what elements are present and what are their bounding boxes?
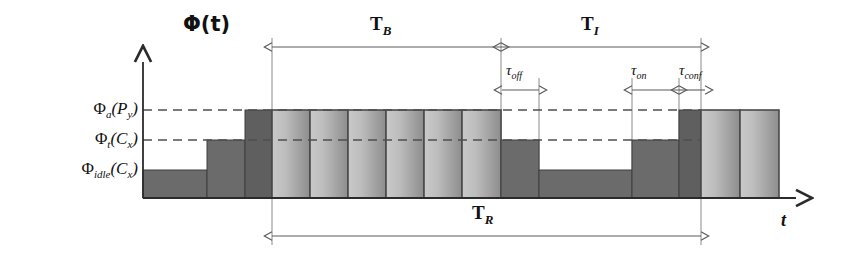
block-tau-on	[632, 140, 679, 198]
block-busy-3	[348, 110, 386, 198]
y-tick-label-phi-idle: Φidle(Cx)	[10, 160, 138, 180]
block-resume-2	[740, 110, 779, 198]
span-label-TI: TI	[581, 14, 599, 37]
span-label-tau-off: τoff	[506, 63, 522, 81]
span-label-TB: TB	[370, 14, 391, 37]
span-label-tau-conf: τconf	[679, 63, 702, 81]
block-step-phi-t	[207, 140, 245, 198]
block-busy-1	[272, 110, 310, 198]
block-tau-off	[501, 140, 539, 198]
block-busy-5	[424, 110, 462, 198]
block-idle-floor	[539, 170, 632, 198]
block-idle-start	[143, 170, 207, 198]
span-label-TR: TR	[472, 203, 493, 226]
phi-t-timing-diagram: Φ(t) t Φa(Py) Φt(Cx) Φidle(Cx) TB TI TR …	[0, 0, 856, 260]
y-tick-label-phi-a: Φa(Py)	[40, 100, 138, 120]
block-busy-2	[310, 110, 348, 198]
waveform-blocks	[143, 110, 779, 198]
block-resume-1	[701, 110, 740, 198]
block-busy-4	[386, 110, 424, 198]
block-tau-conf	[679, 110, 701, 198]
span-label-tau-on: τon	[631, 63, 646, 81]
y-axis-title: Φ(t)	[183, 14, 230, 35]
block-step-phi-a	[245, 110, 272, 198]
x-axis-title: t	[781, 211, 786, 229]
block-busy-6	[462, 110, 501, 198]
y-tick-label-phi-t: Φt(Cx)	[40, 130, 138, 150]
